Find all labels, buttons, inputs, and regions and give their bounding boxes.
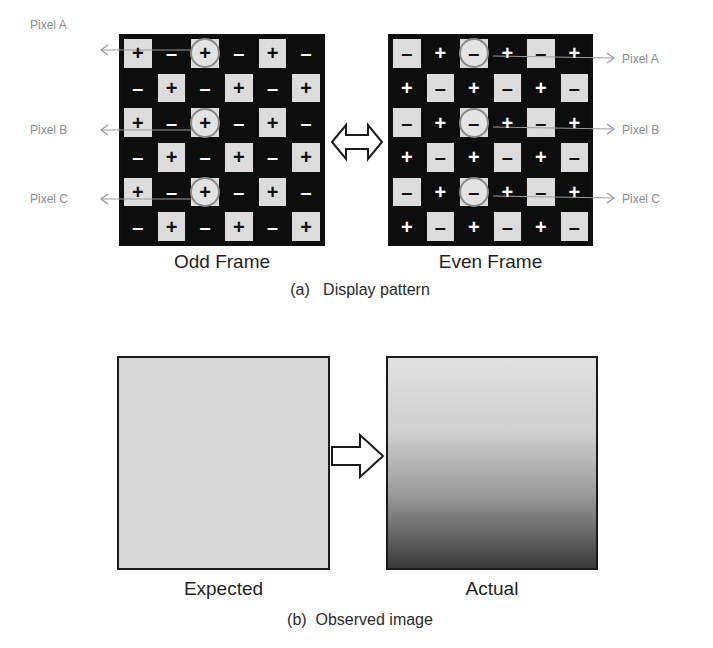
minus-polarity: – xyxy=(435,217,446,237)
plus-polarity: + xyxy=(434,182,446,202)
actual-label: Actual xyxy=(386,578,598,600)
minus-polarity: – xyxy=(535,182,546,202)
plus-polarity: + xyxy=(568,43,580,63)
even-frame-cell: + xyxy=(524,209,558,244)
plus-polarity: + xyxy=(267,43,279,63)
even-frame-cell: + xyxy=(457,209,491,244)
minus-polarity: – xyxy=(535,43,546,63)
odd-frame-cell: – xyxy=(289,105,323,140)
plus-polarity: + xyxy=(132,113,144,133)
even-pixel-c-label: Pixel C xyxy=(622,192,660,206)
plus-polarity: + xyxy=(300,217,312,237)
minus-polarity: – xyxy=(166,182,177,202)
even-pixel-a-label: Pixel A xyxy=(622,52,659,66)
minus-polarity: – xyxy=(166,43,177,63)
minus-polarity: – xyxy=(301,113,312,133)
minus-polarity: – xyxy=(502,217,513,237)
odd-frame-label: Odd Frame xyxy=(119,251,325,273)
odd-frame-cell: – xyxy=(188,209,222,244)
actual-image-panel xyxy=(386,356,598,570)
minus-polarity: – xyxy=(468,182,479,202)
plus-polarity: + xyxy=(199,113,211,133)
even-frame-cell: + xyxy=(390,140,424,175)
odd-frame-cell: + xyxy=(256,175,290,210)
minus-polarity: – xyxy=(200,217,211,237)
plus-polarity: + xyxy=(535,147,547,167)
odd-frame-cell: – xyxy=(188,140,222,175)
observed-image-caption: (b) Observed image xyxy=(200,611,520,629)
minus-polarity: – xyxy=(468,43,479,63)
plus-polarity: + xyxy=(132,182,144,202)
minus-polarity: – xyxy=(502,147,513,167)
minus-polarity: – xyxy=(569,217,580,237)
minus-polarity: – xyxy=(435,78,446,98)
plus-polarity: + xyxy=(132,43,144,63)
odd-frame-cell: + xyxy=(222,209,256,244)
even-frame-label: Even Frame xyxy=(388,251,593,273)
odd-frame-cell: + xyxy=(256,105,290,140)
minus-polarity: – xyxy=(233,113,244,133)
minus-polarity: – xyxy=(301,182,312,202)
minus-polarity: – xyxy=(401,43,412,63)
odd-frame-cell: + xyxy=(289,140,323,175)
even-frame-cell: – xyxy=(558,140,592,175)
minus-polarity: – xyxy=(569,147,580,167)
even-frame-cell: + xyxy=(390,71,424,106)
odd-frame-cell: – xyxy=(121,71,155,106)
minus-polarity: – xyxy=(132,78,143,98)
odd-pixel-c-label: Pixel C xyxy=(30,192,68,206)
plus-polarity: + xyxy=(434,113,446,133)
even-frame-cell: + xyxy=(457,140,491,175)
even-frame-cell: – xyxy=(491,140,525,175)
minus-polarity: – xyxy=(468,113,479,133)
even-frame-cell: + xyxy=(457,71,491,106)
plus-polarity: + xyxy=(401,147,413,167)
odd-frame-grid: +–+–+––+–+–++–+–+––+–+–++–+–+––+–+–+ xyxy=(119,34,325,246)
plus-polarity: + xyxy=(166,217,178,237)
odd-frame-cell: + xyxy=(155,71,189,106)
plus-polarity: + xyxy=(300,78,312,98)
plus-polarity: + xyxy=(468,217,480,237)
even-frame-cell: – xyxy=(491,71,525,106)
plus-polarity: + xyxy=(300,147,312,167)
minus-polarity: – xyxy=(233,182,244,202)
odd-frame-cell: + xyxy=(256,36,290,71)
plus-polarity: + xyxy=(199,43,211,63)
plus-polarity: + xyxy=(401,78,413,98)
minus-polarity: – xyxy=(535,113,546,133)
plus-polarity: + xyxy=(501,113,513,133)
odd-frame-cell: + xyxy=(222,140,256,175)
plus-polarity: + xyxy=(267,113,279,133)
odd-frame-cell: – xyxy=(256,71,290,106)
plus-polarity: + xyxy=(267,182,279,202)
odd-frame-cell: – xyxy=(121,140,155,175)
plus-polarity: + xyxy=(166,78,178,98)
odd-frame-cell: – xyxy=(256,140,290,175)
minus-polarity: – xyxy=(401,182,412,202)
plus-polarity: + xyxy=(535,217,547,237)
even-frame-cell: – xyxy=(390,36,424,71)
double-arrow-icon xyxy=(330,122,384,162)
even-frame-cell: – xyxy=(457,175,491,210)
even-frame-cell: – xyxy=(558,71,592,106)
minus-polarity: – xyxy=(233,43,244,63)
even-frame-cell: – xyxy=(424,71,458,106)
even-frame-cell: – xyxy=(390,175,424,210)
even-frame-cell: + xyxy=(524,71,558,106)
plus-polarity: + xyxy=(166,147,178,167)
display-pattern-caption: (a) Display pattern xyxy=(200,281,520,299)
minus-polarity: – xyxy=(267,147,278,167)
odd-frame-cell: – xyxy=(256,209,290,244)
even-pixel-b-label: Pixel B xyxy=(622,123,659,137)
odd-frame-cell: + xyxy=(289,209,323,244)
odd-frame-cell: – xyxy=(222,175,256,210)
odd-frame-cell: – xyxy=(222,105,256,140)
even-frame-cell: – xyxy=(457,36,491,71)
plus-polarity: + xyxy=(233,217,245,237)
minus-polarity: – xyxy=(166,113,177,133)
odd-frame-cell: – xyxy=(289,175,323,210)
minus-polarity: – xyxy=(267,217,278,237)
even-frame-cell: + xyxy=(424,105,458,140)
odd-frame-cell: + xyxy=(155,140,189,175)
minus-polarity: – xyxy=(200,147,211,167)
